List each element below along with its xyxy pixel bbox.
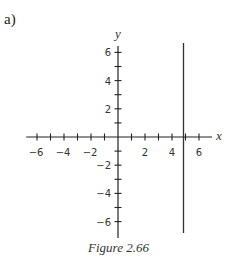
coordinate-plot: −6−4−2246−6−4−2246xy (0, 0, 225, 262)
x-tick-label: −6 (29, 147, 44, 158)
y-tick-label: 6 (105, 47, 111, 58)
y-tick-label: −2 (96, 160, 111, 171)
x-tick-label: 6 (196, 147, 202, 158)
y-axis-label: y (113, 26, 121, 41)
x-tick-label: −2 (83, 147, 98, 158)
x-tick-label: 2 (142, 147, 148, 158)
x-axis-label: x (215, 128, 222, 143)
y-tick-label: −6 (96, 217, 111, 228)
x-tick-label: 4 (169, 147, 175, 158)
x-tick-label: −4 (56, 147, 71, 158)
y-tick-label: −4 (96, 188, 111, 199)
figure-caption: Figure 2.66 (0, 240, 225, 256)
y-tick-label: 2 (105, 104, 111, 115)
y-tick-label: 4 (105, 76, 111, 87)
